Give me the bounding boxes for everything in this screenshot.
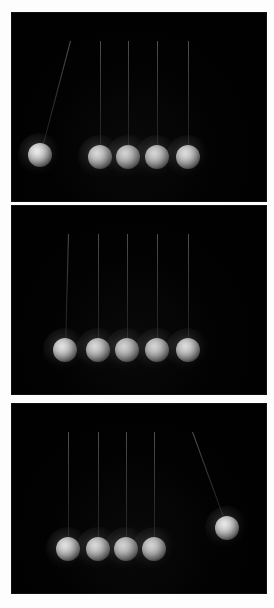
string-4	[154, 432, 155, 539]
frame-3-scene	[12, 404, 266, 593]
ball-3	[115, 338, 139, 362]
frame-panel-2	[12, 206, 266, 394]
frame-1-scene	[12, 13, 266, 201]
string-4	[157, 234, 158, 340]
ball-2	[86, 338, 110, 362]
ball-1	[28, 143, 52, 167]
string-4	[157, 41, 158, 147]
string-5	[188, 234, 189, 340]
ball-5	[176, 145, 200, 169]
ball-1	[56, 537, 80, 561]
string-5	[188, 41, 189, 147]
string-1	[65, 234, 69, 340]
newtons-cradle-figure	[0, 0, 274, 608]
ball-1	[53, 338, 77, 362]
ball-4	[145, 145, 169, 169]
frame-2-scene	[12, 206, 266, 394]
ball-3	[114, 537, 138, 561]
ball-5	[215, 516, 239, 540]
string-5	[192, 432, 225, 519]
ball-5	[176, 338, 200, 362]
string-2	[98, 432, 99, 539]
string-3	[127, 234, 128, 340]
ball-2	[86, 537, 110, 561]
string-2	[100, 41, 101, 147]
frame-panel-1	[12, 13, 266, 201]
string-3	[126, 432, 127, 539]
ball-3	[116, 145, 140, 169]
string-2	[98, 234, 99, 340]
string-1	[43, 41, 71, 146]
ball-4	[145, 338, 169, 362]
ball-4	[142, 537, 166, 561]
string-3	[128, 41, 129, 147]
frame-panel-3	[12, 404, 266, 593]
ball-2	[88, 145, 112, 169]
string-1	[68, 432, 69, 539]
